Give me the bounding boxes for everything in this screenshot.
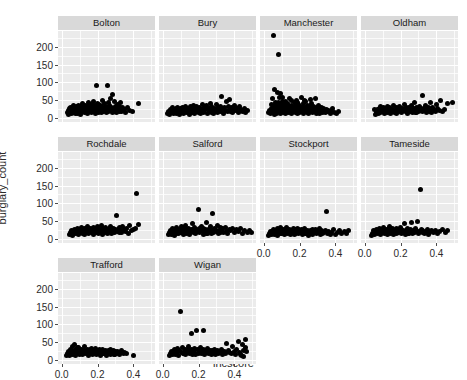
gridline-minor-vertical (454, 31, 455, 122)
y-axis-tick-label: 100 (10, 77, 53, 88)
data-point (131, 353, 136, 358)
x-axis-tick-label: 0.2 (293, 248, 307, 259)
data-point (269, 102, 274, 107)
x-axis-tick-mark (300, 243, 301, 246)
gridline-minor-vertical (252, 273, 253, 364)
gridline-minor-horizontal (58, 280, 155, 281)
x-axis-tick-label: 0.0 (257, 248, 271, 259)
gridline-major-horizontal (58, 221, 155, 222)
data-point (278, 231, 283, 236)
gridline-major-horizontal (159, 47, 256, 48)
y-axis-tick-label: 150 (10, 180, 53, 191)
data-point (68, 347, 73, 352)
gridline-minor-horizontal (58, 73, 155, 74)
facet-title: Stockport (288, 139, 328, 149)
facet-panel-bury: Bury (159, 16, 256, 122)
data-point (178, 230, 183, 235)
y-axis-tick-label: 100 (10, 198, 53, 209)
facet-plot-area (159, 273, 256, 364)
facet-title: Wigan (194, 260, 221, 270)
data-point (85, 104, 90, 109)
facet-panel-tameside: Tameside (361, 137, 458, 243)
y-axis-tick-mark (55, 100, 58, 101)
x-axis-tick-label: 0.4 (227, 369, 241, 380)
gridline-minor-vertical (353, 152, 354, 243)
data-point (180, 106, 185, 111)
gridline-major-horizontal (159, 324, 256, 325)
gridline-major-horizontal (260, 221, 357, 222)
data-point (201, 328, 206, 333)
y-axis-tick-mark (55, 289, 58, 290)
facet-strip-label: Rochdale (58, 137, 155, 151)
data-point (130, 109, 135, 114)
gridline-major-horizontal (58, 239, 155, 240)
data-point (196, 110, 201, 115)
gridline-minor-horizontal (159, 212, 256, 213)
data-point (239, 353, 244, 358)
gridline-minor-horizontal (58, 159, 155, 160)
data-point (409, 220, 414, 225)
y-axis-tick-mark (55, 47, 58, 48)
gridline-major-horizontal (361, 118, 458, 119)
y-axis-tick-label: 200 (10, 41, 53, 52)
gridline-major-horizontal (361, 47, 458, 48)
facet-title: Oldham (393, 18, 426, 28)
gridline-minor-horizontal (159, 333, 256, 334)
gridline-minor-horizontal (159, 73, 256, 74)
data-point (185, 227, 190, 232)
gridline-minor-horizontal (58, 298, 155, 299)
gridline-minor-horizontal (361, 159, 458, 160)
gridline-minor-horizontal (260, 194, 357, 195)
gridline-major-horizontal (58, 47, 155, 48)
y-axis-tick-label: 0 (10, 354, 53, 365)
data-point (276, 52, 281, 57)
data-point (406, 231, 411, 236)
facet-panel-wigan: Wigan (159, 258, 256, 364)
data-point (189, 331, 194, 336)
gridline-major-horizontal (260, 82, 357, 83)
data-point (393, 230, 398, 235)
data-point (112, 352, 117, 357)
x-axis-tick-label: 0.0 (358, 248, 372, 259)
gridline-minor-horizontal (58, 212, 155, 213)
gridline-major-horizontal (260, 239, 357, 240)
y-axis-label: burglary_count (0, 152, 8, 225)
data-point (277, 95, 282, 100)
gridline-minor-horizontal (159, 38, 256, 39)
data-point (91, 106, 96, 111)
gridline-major-horizontal (260, 118, 357, 119)
y-axis-tick-mark (55, 203, 58, 204)
data-point (289, 98, 294, 103)
facet-title: Bury (198, 18, 218, 28)
y-axis-tick-mark (55, 221, 58, 222)
facet-panel-manchester: Manchester (260, 16, 357, 122)
data-point (204, 231, 209, 236)
gridline-minor-horizontal (260, 177, 357, 178)
x-axis-tick-mark (264, 243, 265, 246)
facet-strip-label: Stockport (260, 137, 357, 151)
data-point (107, 105, 112, 110)
facet-plot-area (361, 152, 458, 243)
gridline-major-horizontal (361, 100, 458, 101)
facet-plot-area (159, 152, 256, 243)
gridline-major-vertical (133, 273, 134, 364)
data-point (114, 213, 119, 218)
data-point (415, 219, 420, 224)
gridline-minor-vertical (252, 31, 253, 122)
data-point (124, 351, 129, 356)
x-axis-tick-label: 0.2 (192, 369, 206, 380)
facet-strip-label: Salford (159, 137, 256, 151)
gridline-major-horizontal (159, 100, 256, 101)
gridline-minor-horizontal (260, 56, 357, 57)
gridline-minor-horizontal (260, 38, 357, 39)
facet-strip-label: Wigan (159, 258, 256, 272)
facet-panel-oldham: Oldham (361, 16, 458, 122)
gridline-major-horizontal (260, 47, 357, 48)
data-point (420, 93, 425, 98)
gridline-minor-horizontal (159, 315, 256, 316)
gridline-major-vertical (264, 152, 265, 243)
data-point (395, 107, 400, 112)
facet-strip-label: Trafford (58, 258, 155, 272)
facet-panel-stockport: Stockport (260, 137, 357, 243)
gridline-major-horizontal (159, 168, 256, 169)
